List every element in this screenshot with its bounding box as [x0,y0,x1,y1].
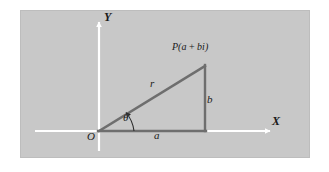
x-axis-label: X [272,115,280,127]
point-p-plus-sign: + [186,41,197,52]
opposite-leg-label: b [207,94,213,105]
angle-theta-label: θ [123,112,128,123]
hypotenuse-segment [99,66,205,131]
point-p-suffix: ) [205,41,208,52]
diagram-canvas [0,0,329,172]
hypotenuse-label: r [150,78,154,89]
figure-root: Y X O P(a + bi) r b a θ [0,0,329,172]
adjacent-leg-label: a [154,130,160,141]
y-axis-label: Y [104,11,111,23]
point-p-imaginary-part: bi [197,41,205,52]
point-p-label: P(a + bi) [172,42,208,52]
origin-label: O [87,131,95,142]
